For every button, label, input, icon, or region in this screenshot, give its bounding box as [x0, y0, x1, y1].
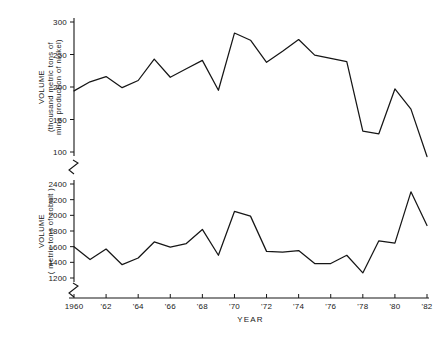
y-tick-label-nickel-100: 100: [53, 148, 67, 157]
dual-line-chart: 100150200250300VOLUME(thousand metric to…: [0, 0, 447, 338]
x-tick-label-1970: '70: [229, 302, 240, 311]
x-tick-label-1974: '74: [293, 302, 304, 311]
x-tick-label-1964: '64: [133, 302, 144, 311]
x-axis: 1960'62'64'66'68'70'72'74'76'78'80'82YEA…: [65, 294, 433, 324]
x-tick-label-1972: '72: [261, 302, 272, 311]
chart-figure: 100150200250300VOLUME(thousand metric to…: [0, 0, 447, 338]
y-axis-title-nickel-line3: mine production of nickel): [54, 39, 63, 135]
x-tick-label-1978: '78: [357, 302, 368, 311]
x-tick-label-1966: '66: [165, 302, 176, 311]
axis-break-icon: [69, 160, 78, 174]
panel-cobalt: 1200140016001800200022002400VOLUME( metr…: [37, 180, 427, 283]
panel-nickel: 100150200250300VOLUME(thousand metric to…: [37, 18, 427, 157]
x-tick-label-1980: '80: [389, 302, 400, 311]
y-tick-label-cobalt-1200: 1200: [48, 274, 67, 283]
x-tick-label-1962: '62: [101, 302, 112, 311]
x-tick-label-1968: '68: [197, 302, 208, 311]
y-tick-label-nickel-300: 300: [53, 18, 67, 27]
series-line-cobalt: [74, 192, 427, 273]
series-line-nickel: [74, 33, 427, 157]
x-tick-label-1982: '82: [421, 302, 432, 311]
x-axis-title: YEAR: [237, 315, 264, 324]
x-tick-label-1976: '76: [325, 302, 336, 311]
y-tick-label-cobalt-2400: 2400: [48, 180, 67, 189]
y-axis-title-cobalt-line2: ( metric tons of cobalt ): [46, 188, 55, 274]
x-tick-label-1960: 1960: [65, 302, 84, 311]
